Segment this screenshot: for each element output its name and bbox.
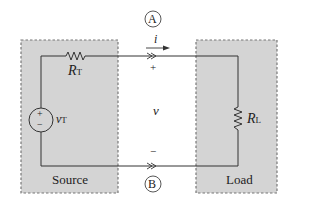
- rl-subscript: L: [256, 115, 262, 125]
- current-arrow-icon: [146, 46, 170, 51]
- rt-subscript: T: [77, 67, 83, 77]
- terminal-b-label: B: [148, 178, 156, 190]
- top-polarity-label: +: [150, 62, 156, 73]
- resistor-rt-label: RT: [68, 64, 82, 78]
- load-block-label: Load: [226, 173, 253, 186]
- source-voltage-label: vT: [56, 113, 67, 125]
- vt-subscript: T: [61, 115, 67, 125]
- rt-symbol: R: [68, 63, 77, 78]
- terminal-a-label: A: [148, 13, 157, 25]
- source-plus-sign: +: [37, 109, 43, 119]
- voltage-label: v: [153, 104, 159, 117]
- current-label: i: [154, 33, 157, 45]
- rl-symbol: R: [247, 111, 256, 126]
- source-block-label: Source: [52, 173, 88, 186]
- bottom-polarity-label: −: [150, 146, 156, 157]
- source-minus-sign: −: [37, 120, 43, 130]
- load-block: [196, 40, 277, 193]
- resistor-rl-label: RL: [247, 112, 261, 126]
